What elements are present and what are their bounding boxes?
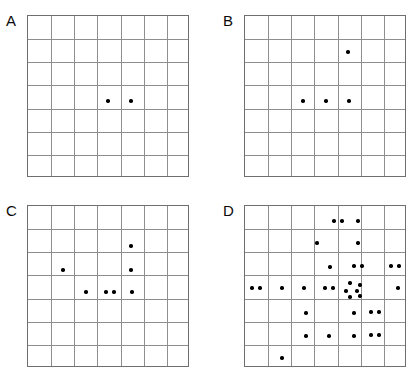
data-dot <box>327 334 330 337</box>
data-dot <box>332 219 335 222</box>
data-dot <box>304 311 307 314</box>
data-dot <box>396 286 399 289</box>
data-dot <box>352 334 355 337</box>
data-dot <box>323 286 326 289</box>
panel-label-d: D <box>223 203 234 218</box>
data-dot <box>340 219 343 222</box>
data-dot <box>328 265 331 268</box>
data-dot <box>377 310 380 313</box>
data-dot <box>348 295 351 298</box>
data-dot <box>360 264 363 267</box>
data-dot <box>356 219 359 222</box>
gridline-horizontal <box>245 275 405 276</box>
data-dot <box>315 241 318 244</box>
data-dot <box>356 241 359 244</box>
data-dot <box>389 264 392 267</box>
gridline-horizontal <box>245 229 405 230</box>
data-dot <box>377 333 380 336</box>
data-dot <box>369 333 372 336</box>
data-dot <box>344 289 347 292</box>
data-dot <box>358 283 361 286</box>
data-dot <box>331 286 334 289</box>
data-dot <box>258 286 261 289</box>
gridline-horizontal <box>245 299 405 300</box>
data-dot <box>280 356 283 359</box>
data-dot <box>352 311 355 314</box>
data-dot <box>397 264 400 267</box>
data-dot <box>352 264 355 267</box>
gridline-horizontal <box>245 322 405 323</box>
data-dot <box>369 310 372 313</box>
panel-d: D <box>0 0 413 380</box>
data-dot <box>302 286 305 289</box>
data-dot <box>250 286 253 289</box>
gridline-horizontal <box>245 345 405 346</box>
data-dot <box>304 334 307 337</box>
gridline-horizontal <box>245 252 405 253</box>
data-dot <box>358 294 361 297</box>
dot-grid-figure: ABCD <box>0 0 413 380</box>
data-dot <box>355 289 358 292</box>
data-dot <box>280 286 283 289</box>
data-dot <box>348 281 351 284</box>
